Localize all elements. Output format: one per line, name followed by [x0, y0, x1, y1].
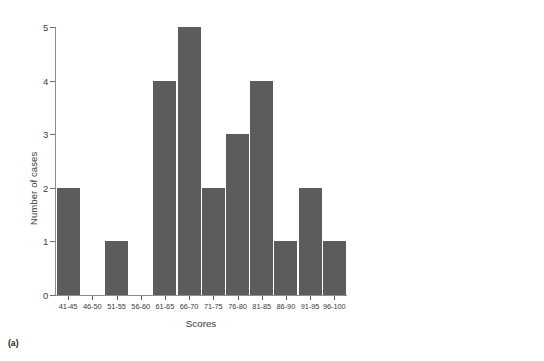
bar-chart-panel-b: Number of cases 048121620 PassFail (b)	[360, 0, 544, 361]
x-tick-label: 81-85	[252, 302, 271, 311]
bar	[299, 188, 322, 295]
x-tick-label: 51-55	[107, 302, 126, 311]
bar	[178, 27, 201, 295]
y-tick-label: 3	[43, 129, 45, 140]
y-tick-mark	[50, 81, 55, 82]
x-tick-label: 66-70	[180, 302, 199, 311]
x-tick-mark	[117, 296, 118, 300]
y-tick-mark	[50, 188, 55, 189]
bar	[57, 188, 80, 295]
x-axis-title-a: Scores	[186, 318, 217, 329]
x-tick-mark	[165, 296, 166, 300]
plot-area-a: 012345	[55, 27, 347, 296]
bar-series-a	[56, 27, 347, 295]
x-tick-mark	[286, 296, 287, 300]
x-tick-mark	[189, 296, 190, 300]
y-axis-title-a: Number of cases	[28, 152, 39, 225]
y-tick-mark	[50, 241, 55, 242]
x-tick-label: 91-95	[301, 302, 320, 311]
x-tick-mark	[310, 296, 311, 300]
bar	[105, 241, 128, 295]
x-tick-label: 76-80	[228, 302, 247, 311]
y-tick-mark	[50, 295, 55, 296]
x-tick-mark	[213, 296, 214, 300]
x-axis-line-a	[55, 295, 347, 296]
bar	[202, 188, 225, 295]
panel-caption-a: (a)	[8, 338, 19, 348]
x-tick-label: 96-100	[323, 302, 346, 311]
bar	[323, 241, 346, 295]
x-tick-mark	[141, 296, 142, 300]
x-tick-label: 46-50	[83, 302, 102, 311]
bar	[274, 241, 297, 295]
x-tick-label: 71-75	[204, 302, 223, 311]
bar	[250, 81, 273, 295]
bar	[153, 81, 176, 295]
bar	[226, 134, 249, 295]
y-tick-mark	[50, 27, 55, 28]
x-tick-label: 86-90	[277, 302, 296, 311]
x-tick-mark	[334, 296, 335, 300]
y-tick-label: 5	[43, 22, 45, 33]
x-tick-label: 41-45	[59, 302, 78, 311]
y-tick-label: 0	[43, 290, 45, 301]
histogram-panel-a: Number of cases 012345 41-4546-5051-5556…	[0, 0, 360, 361]
x-tick-label: 61-65	[156, 302, 175, 311]
y-tick-mark	[50, 134, 55, 135]
x-tick-label: 56-60	[131, 302, 150, 311]
x-tick-mark	[262, 296, 263, 300]
y-tick-label: 2	[43, 182, 45, 193]
y-tick-label: 4	[43, 75, 45, 86]
x-tick-mark	[238, 296, 239, 300]
x-tick-mark	[68, 296, 69, 300]
x-tick-mark	[92, 296, 93, 300]
y-tick-label: 1	[43, 236, 45, 247]
